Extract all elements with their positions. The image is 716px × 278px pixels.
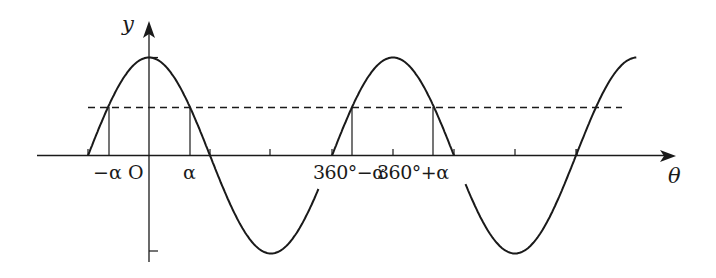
x-axis-label: θ bbox=[668, 166, 681, 187]
curve-seg-2 bbox=[332, 58, 454, 156]
label-neg-alpha: −α bbox=[93, 163, 122, 182]
label-origin: O bbox=[128, 163, 144, 182]
drop-lines bbox=[109, 107, 433, 155]
x-ticks bbox=[270, 149, 577, 155]
label-360-minus-alpha: 360°−α bbox=[313, 163, 385, 182]
label-360-plus-alpha: 360°+α bbox=[377, 163, 449, 182]
y-axis-label: y bbox=[122, 14, 134, 35]
cosine-graph bbox=[0, 0, 716, 278]
label-alpha: α bbox=[183, 163, 196, 182]
